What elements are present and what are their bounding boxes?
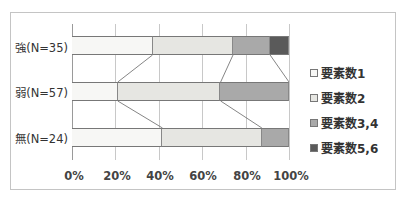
legend-item-2: 要素数2 <box>310 85 378 110</box>
legend-label: 要素数2 <box>321 89 365 106</box>
legend-swatch-icon <box>310 94 318 102</box>
legend-swatch-icon <box>310 69 318 77</box>
x-tick-60: 60% <box>189 169 217 183</box>
x-tick-100: 100% <box>273 169 309 183</box>
gridline-100 <box>289 24 290 160</box>
plot-area <box>72 24 289 160</box>
legend-item-4: 要素数5,6 <box>310 135 378 160</box>
legend-swatch-icon <box>310 144 318 152</box>
legend-swatch-icon <box>310 119 318 127</box>
series-lines <box>72 24 289 160</box>
legend-item-1: 要素数1 <box>310 60 378 85</box>
x-tick-0: 0% <box>64 169 84 183</box>
legend-label: 要素数1 <box>321 64 365 81</box>
row-label-none: 無(N=24) <box>15 130 68 146</box>
legend-label: 要素数3,4 <box>321 114 378 131</box>
legend-label: 要素数5,6 <box>321 139 378 156</box>
x-tick-80: 80% <box>233 169 261 183</box>
legend: 要素数1 要素数2 要素数3,4 要素数5,6 <box>310 60 378 160</box>
x-tick-40: 40% <box>146 169 174 183</box>
row-label-weak: 弱(N=57) <box>15 84 68 100</box>
x-tick-20: 20% <box>103 169 131 183</box>
row-label-strong: 強(N=35) <box>15 39 68 55</box>
legend-item-3: 要素数3,4 <box>310 110 378 135</box>
